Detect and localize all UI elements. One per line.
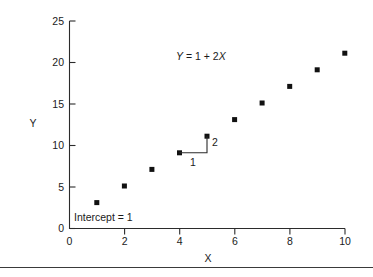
data-point xyxy=(287,84,292,89)
footer-divider xyxy=(0,267,373,268)
y-axis-ticks xyxy=(70,21,76,229)
y-tick-label: 20 xyxy=(52,56,64,68)
x-axis-tick-labels: 0 2 4 6 8 10 xyxy=(67,235,351,247)
data-point xyxy=(260,101,265,106)
x-tick-label: 6 xyxy=(232,235,238,247)
equation-rhs: X xyxy=(218,50,227,62)
y-axis-title: Y xyxy=(29,117,36,129)
data-point xyxy=(232,117,237,122)
equation-annotation: Y = 1 + 2X xyxy=(176,50,227,62)
chart-svg: 25 20 15 10 5 0 0 2 4 6 8 10 Y X xyxy=(0,0,373,277)
data-point xyxy=(94,200,99,205)
y-tick-label: 0 xyxy=(58,222,64,234)
x-axis-title: X xyxy=(204,252,211,264)
data-point xyxy=(342,51,347,56)
x-tick-label: 4 xyxy=(177,235,183,247)
scatter-plot-figure: 25 20 15 10 5 0 0 2 4 6 8 10 Y X xyxy=(0,0,373,277)
data-point xyxy=(122,184,127,189)
data-point xyxy=(315,67,320,72)
y-tick-label: 5 xyxy=(58,181,64,193)
y-tick-label: 25 xyxy=(52,15,64,27)
data-point xyxy=(149,167,154,172)
run-label: 1 xyxy=(190,156,196,168)
y-tick-label: 15 xyxy=(52,98,64,110)
x-tick-label: 8 xyxy=(287,235,293,247)
x-axis-ticks xyxy=(125,229,345,235)
intercept-annotation: Intercept = 1 xyxy=(74,211,133,223)
x-tick-label: 10 xyxy=(339,235,351,247)
x-tick-label: 2 xyxy=(122,235,128,247)
y-axis-tick-labels: 25 20 15 10 5 0 xyxy=(52,15,64,234)
rise-label: 2 xyxy=(212,136,218,148)
slope-triangle-lines xyxy=(180,136,208,153)
equation-mid: = 1 + 2 xyxy=(183,50,219,62)
y-tick-label: 10 xyxy=(52,139,64,151)
x-tick-label: 0 xyxy=(67,235,73,247)
data-point-series xyxy=(94,51,347,205)
